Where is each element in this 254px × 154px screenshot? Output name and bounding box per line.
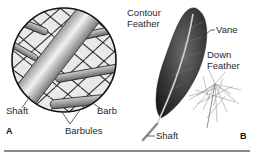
- label-down-line1: Down: [207, 50, 231, 60]
- label-contour-line2: Feather: [127, 19, 160, 29]
- panel-letter-a: A: [6, 126, 13, 136]
- panel-a-magnified-structure: Shaft Barb Barbules A: [0, 0, 127, 150]
- label-shaft-b: Shaft: [156, 131, 178, 141]
- label-barb: Barb: [97, 106, 117, 116]
- label-shaft-a: Shaft: [6, 106, 28, 116]
- magnified-feather-illustration: [0, 0, 127, 150]
- label-barbules: Barbules: [65, 126, 103, 136]
- panel-b-feather-types: Contour Feather Vane Down Feather Shaft …: [127, 0, 254, 150]
- label-contour-line1: Contour: [127, 8, 161, 18]
- label-down-line2: Feather: [207, 61, 240, 71]
- label-vane: Vane: [216, 25, 237, 35]
- panel-letter-b: B: [240, 131, 247, 141]
- bottom-divider: [4, 150, 250, 152]
- down-feather: [189, 70, 241, 128]
